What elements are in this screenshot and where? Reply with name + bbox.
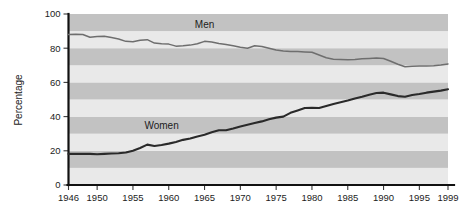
x-tick-label: 1965 xyxy=(194,192,215,203)
x-tick-label: 1975 xyxy=(266,192,287,203)
y-axis-tick-labels: 020406080100 xyxy=(45,8,61,190)
x-tick-label: 1970 xyxy=(230,192,251,203)
x-tick-label: 1995 xyxy=(409,192,430,203)
background-band xyxy=(69,100,449,117)
x-axis-tick-labels: 1946195019551960196519701975198019851990… xyxy=(58,192,459,203)
x-tick-label: 1990 xyxy=(373,192,394,203)
y-tick-label: 0 xyxy=(55,179,60,190)
x-tick-label: 1960 xyxy=(158,192,179,203)
x-tick-label: 1955 xyxy=(122,192,143,203)
y-tick-label: 40 xyxy=(50,111,61,122)
background-band xyxy=(69,48,449,65)
series-annotation-men: Men xyxy=(195,19,214,30)
plot-background-bands xyxy=(69,14,449,185)
series-annotation-women: Women xyxy=(144,120,178,131)
line-chart: 020406080100 194619501955196019651970197… xyxy=(0,0,469,212)
x-tick-label: 1950 xyxy=(87,192,108,203)
background-band xyxy=(69,134,449,151)
y-axis-title: Percentage xyxy=(13,74,24,126)
background-band xyxy=(69,14,449,31)
x-tick-label: 1985 xyxy=(337,192,358,203)
y-tick-label: 80 xyxy=(50,43,61,54)
x-tick-label: 1980 xyxy=(301,192,322,203)
background-band xyxy=(69,168,449,185)
background-band xyxy=(69,82,449,99)
y-tick-label: 20 xyxy=(50,145,61,156)
background-band xyxy=(69,65,449,82)
y-tick-label: 60 xyxy=(50,77,61,88)
x-tick-label: 1999 xyxy=(437,192,458,203)
chart-container: 020406080100 194619501955196019651970197… xyxy=(0,0,469,212)
x-tick-label: 1946 xyxy=(58,192,79,203)
y-tick-label: 100 xyxy=(45,8,61,19)
background-band xyxy=(69,117,449,134)
